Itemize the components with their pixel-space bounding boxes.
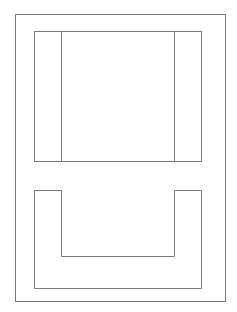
line-diagram xyxy=(0,0,237,312)
upper-panel xyxy=(35,32,202,162)
outer-frame xyxy=(16,15,226,302)
lower-u-shape xyxy=(35,191,202,289)
